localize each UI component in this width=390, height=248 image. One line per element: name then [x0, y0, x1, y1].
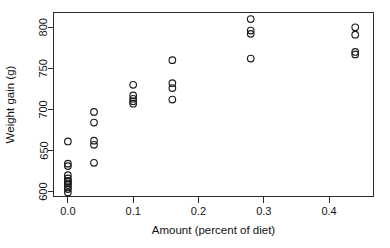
- data-points: [65, 16, 359, 196]
- x-axis: 0.00.10.20.30.4: [60, 197, 337, 217]
- x-tick-label: 0.3: [256, 205, 271, 217]
- data-point: [352, 24, 359, 31]
- data-point: [247, 55, 254, 62]
- data-point: [65, 138, 72, 145]
- data-point: [169, 57, 176, 64]
- x-tick-label: 0.2: [191, 205, 206, 217]
- data-point: [169, 96, 176, 103]
- y-tick-label: 750: [38, 59, 50, 77]
- data-point: [169, 80, 176, 87]
- y-tick-label: 600: [38, 182, 50, 200]
- y-tick-label: 700: [38, 100, 50, 118]
- data-point: [91, 137, 98, 144]
- x-axis-title-text: Amount (percent of diet): [152, 224, 276, 236]
- x-tick-label: 0.0: [60, 205, 75, 217]
- y-axis-title-text: Weight gain (g): [4, 65, 16, 143]
- x-tick-label: 0.4: [321, 205, 336, 217]
- plot-frame: [54, 13, 374, 197]
- y-tick-label: 800: [38, 18, 50, 36]
- plot-canvas: 0.00.10.20.30.4600650700750800Amount (pe…: [0, 0, 390, 248]
- y-axis: 600650700750800: [38, 18, 54, 201]
- data-point: [352, 31, 359, 38]
- data-point: [91, 109, 98, 116]
- data-point: [130, 81, 137, 88]
- x-tick-label: 0.1: [126, 205, 141, 217]
- scatter-plot-figure: 0.00.10.20.30.4600650700750800Amount (pe…: [0, 0, 390, 248]
- data-point: [91, 119, 98, 126]
- data-point: [91, 160, 98, 167]
- data-point: [247, 16, 254, 23]
- y-tick-label: 650: [38, 141, 50, 159]
